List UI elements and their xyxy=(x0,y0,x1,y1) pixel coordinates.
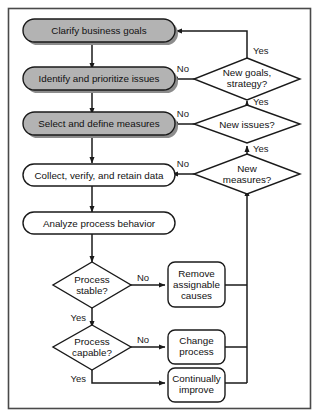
node-label-line1: Remove xyxy=(178,268,215,279)
node-label-line2: strategy? xyxy=(227,78,268,89)
node-label: Collect, verify, and retain data xyxy=(35,170,164,181)
node-continually-improve[interactable]: Continually improve xyxy=(168,368,225,402)
node-select-and-define-measures[interactable]: Select and define measures xyxy=(23,112,178,138)
node-identify-and-prioritize-issues[interactable]: Identify and prioritize issues xyxy=(23,67,178,93)
node-label-line3: causes xyxy=(181,290,212,301)
edge-label-capable-yes: Yes xyxy=(71,373,87,384)
node-label: Analyze process behavior xyxy=(43,218,156,229)
node-label-line2: measures? xyxy=(223,174,272,185)
flowchart-page: Clarify business goals Identify and prio… xyxy=(0,0,319,420)
node-label: Identify and prioritize issues xyxy=(39,73,160,84)
edge-label-stable-yes: Yes xyxy=(71,312,87,323)
edge-label-newmeasures-no: No xyxy=(177,158,189,169)
node-label: Select and define measures xyxy=(38,118,160,129)
node-label-line1: New goals, xyxy=(223,67,271,78)
edge-label-newissues-yes: Yes xyxy=(253,96,269,107)
node-label-line1: Continually xyxy=(172,373,221,384)
edge-label-newmeasures-yes: Yes xyxy=(253,143,269,154)
node-change-process[interactable]: Change process xyxy=(168,330,225,364)
node-collect-verify-retain-data[interactable]: Collect, verify, and retain data xyxy=(23,164,175,186)
edge-label-newissues-no: No xyxy=(177,108,189,119)
edge-label-capable-no: No xyxy=(137,334,149,345)
node-label-line2: improve xyxy=(179,384,214,395)
node-label-line2: capable? xyxy=(72,347,112,358)
edge-label-stable-no: No xyxy=(137,272,149,283)
node-label-line1: New xyxy=(237,163,258,174)
node-analyze-process-behavior[interactable]: Analyze process behavior xyxy=(23,212,175,234)
node-clarify-business-goals[interactable]: Clarify business goals xyxy=(23,19,178,45)
node-label-line1: Process xyxy=(74,274,109,285)
node-label-line1: New issues? xyxy=(219,119,275,130)
node-label-line1: Process xyxy=(74,336,109,347)
edge-label-newgoals-no: No xyxy=(177,63,189,74)
node-remove-assignable-causes[interactable]: Remove assignable causes xyxy=(168,262,225,307)
node-label-line2: stable? xyxy=(76,285,108,296)
node-label-line2: process xyxy=(179,346,213,357)
edge-label-newgoals-yes: Yes xyxy=(253,45,269,56)
node-label-line2: assignable xyxy=(173,279,220,290)
node-label-line1: Change xyxy=(179,335,214,346)
flowchart-canvas: Clarify business goals Identify and prio… xyxy=(0,0,319,420)
node-label: Clarify business goals xyxy=(51,25,146,36)
